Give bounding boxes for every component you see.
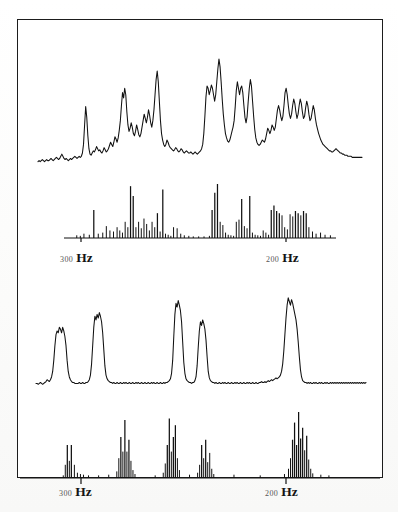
upper-axis-label-300: 300Hz (60, 248, 93, 266)
lower-calculated-sticks (18, 404, 382, 490)
upper-experimental-trace (18, 44, 382, 174)
upper-axis-300-unit: Hz (76, 250, 93, 265)
upper-calculated-sticks (18, 180, 382, 242)
upper-panel: 300Hz 200Hz (18, 20, 382, 270)
lower-axis-200-number: 200 (265, 489, 278, 498)
lower-axis-200-unit: Hz (281, 484, 298, 499)
lower-panel (18, 272, 382, 478)
lower-axis-300-number: 300 (59, 489, 72, 498)
lower-axis-label-300: 300Hz (59, 482, 92, 500)
lower-experimental-trace (18, 284, 382, 396)
upper-axis-200-unit: Hz (282, 250, 299, 265)
figure-page: 300Hz 200Hz 300Hz (0, 0, 398, 512)
upper-axis-label-200: 200Hz (266, 248, 299, 266)
lower-axis-300-unit: Hz (75, 484, 92, 499)
figure-frame: 300Hz 200Hz (17, 19, 383, 478)
upper-axis-labels: 300Hz 200Hz (18, 248, 382, 266)
upper-axis-300-number: 300 (60, 255, 73, 264)
lower-axis-label-200: 200Hz (265, 482, 298, 500)
upper-axis-200-number: 200 (266, 255, 279, 264)
lower-axis-labels: 300Hz 200Hz (17, 482, 398, 500)
